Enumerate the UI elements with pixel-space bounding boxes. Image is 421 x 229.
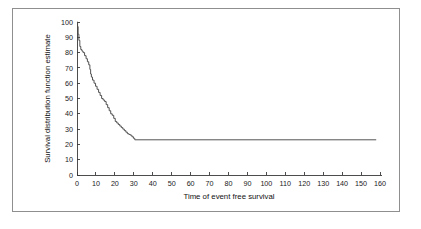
x-axis-tick-label: 140: [336, 179, 348, 188]
x-axis-tick-label: 90: [243, 179, 251, 188]
plot-area: [77, 22, 376, 140]
x-axis-ticks: [77, 172, 380, 175]
y-axis-tick-label: 70: [65, 64, 73, 73]
x-axis-tick-label: 70: [206, 179, 214, 188]
x-axis-tick-label: 130: [317, 179, 329, 188]
x-axis-tick-label: 40: [149, 179, 157, 188]
y-axis-tick-label: 0: [69, 171, 73, 180]
x-axis-tick-label: 60: [187, 179, 195, 188]
y-axis-tick-label: 100: [61, 18, 73, 27]
x-axis-tick-label: 160: [374, 179, 386, 188]
y-axis-tick-label: 20: [65, 140, 73, 149]
y-axis-group: 0102030405060708090100 Survival distribu…: [43, 18, 80, 180]
survival-step-curve: [77, 22, 376, 140]
x-axis-tick-label: 0: [75, 179, 79, 188]
y-axis-tick-labels: 0102030405060708090100: [61, 18, 73, 180]
y-axis-tick-label: 10: [65, 155, 73, 164]
x-axis-tick-label: 150: [355, 179, 367, 188]
x-axis-tick-label: 110: [280, 179, 291, 188]
x-axis-tick-label: 100: [260, 179, 272, 188]
y-axis-tick-label: 30: [65, 125, 73, 134]
y-axis-tick-label: 40: [65, 109, 73, 118]
x-axis-title: Time of event free survival: [183, 192, 274, 201]
y-axis-tick-label: 50: [65, 94, 73, 103]
y-axis-title: Survival distribution function estimate: [43, 34, 52, 163]
x-axis-tick-label: 30: [130, 179, 138, 188]
x-axis-tick-label: 10: [92, 179, 100, 188]
x-axis-group: 0102030405060708090100110120130140150160…: [75, 172, 386, 201]
x-axis-tick-label: 120: [298, 179, 310, 188]
y-axis-tick-label: 60: [65, 79, 73, 88]
x-axis-tick-labels: 0102030405060708090100110120130140150160: [75, 179, 386, 188]
x-axis-tick-label: 50: [168, 179, 176, 188]
x-axis-tick-label: 80: [225, 179, 233, 188]
figure-root: 0102030405060708090100 Survival distribu…: [0, 0, 421, 229]
x-axis-tick-label: 20: [111, 179, 119, 188]
y-axis-tick-label: 80: [65, 48, 73, 57]
survival-chart: 0102030405060708090100 Survival distribu…: [0, 0, 421, 229]
y-axis-tick-label: 90: [65, 33, 73, 42]
